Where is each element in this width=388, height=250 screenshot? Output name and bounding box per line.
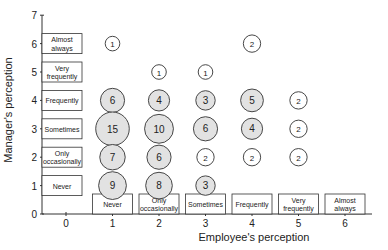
chart-canvas: 01234567 0123456 NeverOnlyoccasionallySo… <box>0 0 388 250</box>
bubble-count: 6 <box>110 95 116 106</box>
x-tick-label: 0 <box>63 218 69 229</box>
category-box-label: always <box>334 205 356 213</box>
bubble-count: 4 <box>156 95 162 106</box>
category-box-label: always <box>51 45 73 53</box>
bubble-count: 1 <box>110 40 115 49</box>
y-category-box: Veryfrequently <box>42 62 82 82</box>
bubble: 6 <box>193 117 217 141</box>
bubble: 2 <box>243 35 260 52</box>
y-tick-label: 2 <box>31 152 37 163</box>
category-box-label: Almost <box>334 197 355 204</box>
bubble: 2 <box>197 149 214 166</box>
bubble-count: 3 <box>203 180 209 191</box>
y-tick-label: 6 <box>31 39 37 50</box>
category-box-label: frequently <box>47 73 78 81</box>
bubble: 7 <box>100 144 125 169</box>
y-tick-label: 1 <box>31 181 37 192</box>
bubble-count: 2 <box>296 154 301 163</box>
x-category-box: Sometimes <box>186 194 226 214</box>
category-box-label: Only <box>55 150 70 158</box>
bubble-count: 7 <box>110 152 116 163</box>
category-box-label: Never <box>103 201 122 208</box>
y-tick-label: 3 <box>31 124 37 135</box>
x-tick-label: 3 <box>203 218 209 229</box>
bubble-count: 6 <box>203 123 209 134</box>
y-tick-label: 4 <box>31 95 37 106</box>
bubble: 6 <box>147 145 171 169</box>
x-category-box: Almostalways <box>325 194 365 214</box>
bubble-count: 6 <box>156 152 162 163</box>
bubble-chart: 01234567 0123456 NeverOnlyoccasionallySo… <box>0 0 388 250</box>
bubble: 5 <box>241 89 264 112</box>
bubble: 6 <box>100 88 124 112</box>
x-category-box: Frequently <box>232 194 272 214</box>
bubble-count: 2 <box>296 97 301 106</box>
bubble: 4 <box>148 90 169 111</box>
x-axis-label: Employee's perception <box>199 231 310 243</box>
category-box-label: Sometimes <box>188 201 224 208</box>
category-box-label: Never <box>53 183 72 190</box>
x-tick-label: 2 <box>156 218 162 229</box>
bubble-count: 3 <box>203 95 209 106</box>
y-tick-label: 7 <box>31 10 37 21</box>
y-tick-label: 0 <box>31 209 37 220</box>
category-box-label: Very <box>291 197 306 205</box>
y-category-box: Almostalways <box>42 34 82 54</box>
bubble-count: 4 <box>249 123 255 134</box>
bubble: 2 <box>290 149 307 166</box>
bubble: 2 <box>243 149 260 166</box>
bubble: 2 <box>290 92 307 109</box>
x-tick-label: 6 <box>342 218 348 229</box>
category-box-label: Almost <box>51 36 72 43</box>
bubble: 3 <box>196 91 215 110</box>
category-box-label: Frequently <box>235 201 269 209</box>
bubble-count: 2 <box>296 125 301 134</box>
bubble-count: 2 <box>203 154 208 163</box>
bubble: 10 <box>145 114 174 143</box>
category-box-label: occasionally <box>140 205 179 213</box>
x-tick-label: 5 <box>296 218 302 229</box>
bubble: 1 <box>105 36 120 51</box>
bubble-count: 8 <box>156 180 162 191</box>
bubble-count: 15 <box>107 124 119 135</box>
bubble-count: 5 <box>249 95 255 106</box>
bubble-count: 1 <box>157 69 162 78</box>
bubble: 4 <box>241 118 262 139</box>
x-category-boxes: NeverOnlyoccasionallySometimesFrequently… <box>93 194 366 214</box>
category-box-label: Sometimes <box>44 126 80 133</box>
category-box-label: frequently <box>283 205 314 213</box>
bubble: 2 <box>290 120 307 137</box>
y-category-boxes: NeverOnlyoccasionallySometimesFrequently… <box>42 34 82 196</box>
y-category-box: Never <box>42 176 82 196</box>
x-axis: 0123456 <box>42 212 372 229</box>
bubble-count: 2 <box>250 154 255 163</box>
bubble-count: 9 <box>110 180 116 191</box>
x-category-box: Veryfrequently <box>279 194 319 214</box>
bubble: 1 <box>152 65 167 80</box>
bubble-count: 10 <box>153 124 165 135</box>
bubble-count: 1 <box>203 69 208 78</box>
bubble: 15 <box>96 112 130 146</box>
bubble: 1 <box>198 65 213 80</box>
category-box-label: occasionally <box>43 158 82 166</box>
bubble: 9 <box>99 172 127 200</box>
x-tick-label: 4 <box>249 218 255 229</box>
category-box-label: Very <box>55 65 70 73</box>
y-axis-label: Manager's perception <box>2 57 14 162</box>
category-box-label: Frequently <box>45 97 79 105</box>
x-tick-label: 1 <box>110 218 116 229</box>
bubble: 3 <box>196 176 215 195</box>
y-category-box: Frequently <box>42 90 82 110</box>
y-category-box: Onlyoccasionally <box>42 147 82 167</box>
y-tick-label: 5 <box>31 67 37 78</box>
bubble-count: 2 <box>250 40 255 49</box>
bubbles: 161579141068136232542222 <box>96 35 307 200</box>
y-category-box: Sometimes <box>42 119 82 139</box>
bubble: 8 <box>146 172 173 199</box>
